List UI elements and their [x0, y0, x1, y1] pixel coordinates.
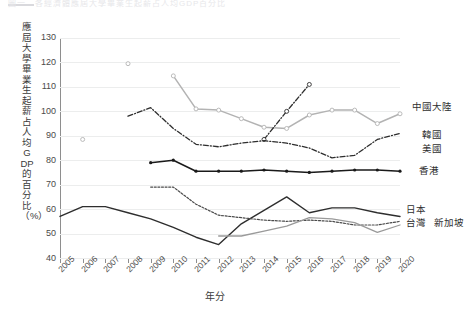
cropped-header-strip: 圖一 各經濟體應屆大學畢業生起薪占人均GDP百分比 — [0, 0, 475, 12]
series-label-usa: 美國 — [422, 141, 442, 155]
y-tick-70: 70 — [26, 180, 56, 189]
x-axis-title: 年分 — [205, 288, 225, 303]
y-tick-50: 50 — [26, 229, 56, 238]
series-label-singapore: 新加坡 — [434, 215, 464, 229]
series-label-china: 中國大陸 — [412, 99, 452, 113]
y-tick-labels: 130 120 110 100 90 80 70 60 50 40 — [22, 0, 56, 300]
y-tick-110: 110 — [26, 82, 56, 91]
y-tick-100: 100 — [26, 107, 56, 116]
chart-screenshot: 圖一 各經濟體應屆大學畢業生起薪占人均GDP百分比 應屆大學畢業生起薪占人均GD… — [0, 0, 475, 318]
y-tick-90: 90 — [26, 131, 56, 140]
y-tick-120: 120 — [26, 58, 56, 67]
y-tick-60: 60 — [26, 205, 56, 214]
series-label-japan: 日本 — [406, 202, 426, 216]
y-tick-130: 130 — [26, 33, 56, 42]
series-plot — [60, 38, 400, 258]
plot-area — [60, 38, 400, 258]
y-tick-80: 80 — [26, 156, 56, 165]
series-label-korea: 韓國 — [422, 127, 442, 141]
y-tick-40: 40 — [26, 254, 56, 263]
series-label-hongkong: 香港 — [419, 163, 439, 177]
series-label-taiwan: 台灣 — [406, 215, 426, 229]
